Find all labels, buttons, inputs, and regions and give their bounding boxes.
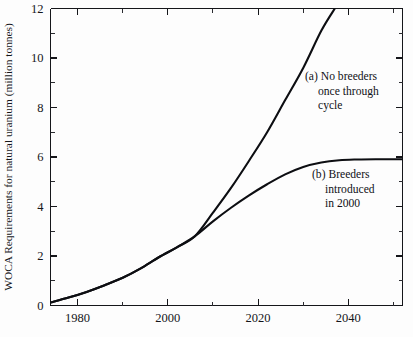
y-axis-tick-label: 6 — [37, 150, 43, 164]
annotation-a-line: (a) No breeders — [305, 70, 378, 83]
y-axis-tick-label: 8 — [37, 101, 43, 115]
y-axis-tick-label: 12 — [31, 2, 44, 16]
annotation-b-line: (b) Breeders — [312, 168, 370, 181]
x-axis-tick-label: 1980 — [65, 311, 90, 325]
annotation-a-line: once through — [318, 85, 379, 98]
annotation-b-line: in 2000 — [325, 197, 360, 210]
annotation-b-line: introduced — [325, 183, 375, 196]
y-axis-tick-label: 4 — [37, 200, 44, 214]
x-axis-tick-label: 2040 — [336, 311, 361, 325]
chart-figure: 0246810121980200020202040 (a) No breeder… — [0, 0, 413, 337]
uranium-requirements-line-chart: 0246810121980200020202040 (a) No breeder… — [0, 0, 413, 337]
x-axis-tick-label: 2020 — [246, 311, 271, 325]
chart-y-axis-title: WOCA Requirements for natural uranium (m… — [2, 23, 15, 291]
y-axis-title-text: WOCA Requirements for natural uranium (m… — [2, 23, 15, 291]
y-axis-tick-label: 2 — [37, 249, 43, 263]
y-axis-tick-label: 0 — [37, 299, 43, 313]
y-axis-tick-label: 10 — [31, 51, 44, 65]
x-axis-tick-label: 2000 — [155, 311, 180, 325]
annotation-a-line: cycle — [318, 99, 342, 112]
